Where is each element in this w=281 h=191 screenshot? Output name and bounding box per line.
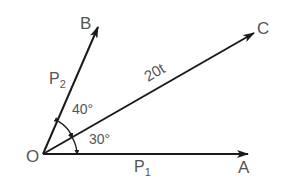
vector-OC (43, 33, 254, 154)
angle-40-label: 40° (72, 101, 93, 117)
origin-label: O (26, 147, 39, 166)
magnitude-20t-label: 20t (141, 59, 168, 85)
p2-label: P2 (49, 70, 66, 90)
angle-arc-40 (59, 121, 73, 137)
point-c-label: C (257, 19, 269, 38)
angle-30-label: 30° (89, 131, 110, 147)
p1-label: P1 (134, 158, 151, 178)
angle-arc-30 (72, 138, 77, 154)
point-a-label: A (238, 158, 250, 177)
point-b-label: B (80, 14, 91, 33)
force-diagram: O A P1 C 20t B P2 40° 30° (0, 0, 281, 191)
